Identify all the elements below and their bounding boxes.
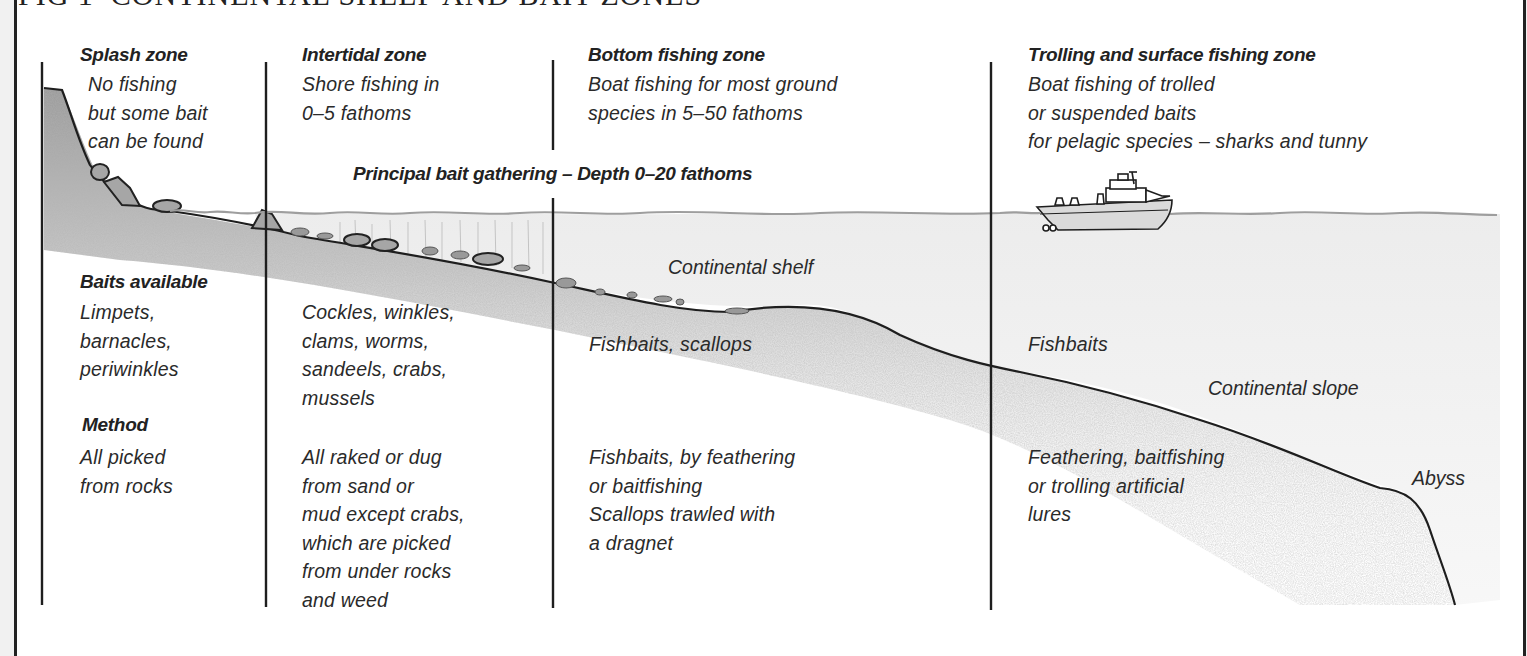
abyss-label: Abyss [1412, 467, 1465, 490]
splash-zone-description: No fishing but some bait can be found [88, 70, 208, 156]
bottom-fishing-zone-heading: Bottom fishing zone [588, 41, 765, 69]
fishing-boat-illustration [1037, 172, 1172, 231]
trolling-baits-list: Fishbaits [1028, 330, 1108, 359]
splash-method: All picked from rocks [80, 443, 173, 500]
continental-slope-label: Continental slope [1208, 377, 1359, 400]
splash-zone-heading: Splash zone [80, 41, 188, 69]
splash-baits-list: Limpets, barnacles, periwinkles [80, 298, 179, 384]
baits-available-heading: Baits available [80, 268, 208, 296]
bottom-fishing-zone-description: Boat fishing for most ground species in … [588, 70, 837, 127]
method-heading: Method [82, 411, 148, 439]
principal-bait-gathering-banner: Principal bait gathering – Depth 0–20 fa… [353, 160, 752, 188]
bottom-baits-list: Fishbaits, scallops [589, 330, 752, 359]
intertidal-zone-description: Shore fishing in 0–5 fathoms [302, 70, 440, 127]
trolling-zone-description: Boat fishing of trolled or suspended bai… [1028, 70, 1367, 156]
intertidal-zone-heading: Intertidal zone [302, 41, 426, 69]
trolling-zone-heading: Trolling and surface fishing zone [1028, 41, 1315, 69]
intertidal-method: All raked or dug from sand or mud except… [302, 443, 465, 614]
intertidal-baits-list: Cockles, winkles, clams, worms, sandeels… [302, 298, 455, 412]
bottom-method: Fishbaits, by feathering or baitfishing … [589, 443, 795, 557]
trolling-method: Feathering, baitfishing or trolling arti… [1028, 443, 1224, 529]
continental-shelf-label: Continental shelf [668, 256, 813, 279]
